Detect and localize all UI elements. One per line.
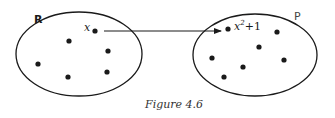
point	[281, 57, 286, 62]
domain-points	[35, 28, 110, 79]
point	[225, 26, 230, 31]
domain-set-label: R	[34, 14, 42, 25]
point	[105, 48, 110, 53]
point	[92, 28, 97, 33]
point	[240, 64, 245, 69]
image-label-exponent: 2	[240, 19, 244, 27]
point	[65, 74, 70, 79]
point	[104, 69, 109, 74]
point	[35, 61, 40, 66]
image-label-rest: +1	[245, 20, 261, 33]
point	[221, 74, 226, 79]
codomain-set-label: P	[294, 11, 301, 22]
point	[274, 29, 279, 34]
element-label-x: x	[84, 22, 90, 33]
point	[66, 38, 71, 43]
point	[209, 55, 214, 60]
image-label: x2+1	[234, 21, 261, 32]
codomain-points	[209, 26, 286, 79]
point	[256, 44, 261, 49]
figure-caption: Figure 4.6	[145, 99, 203, 110]
